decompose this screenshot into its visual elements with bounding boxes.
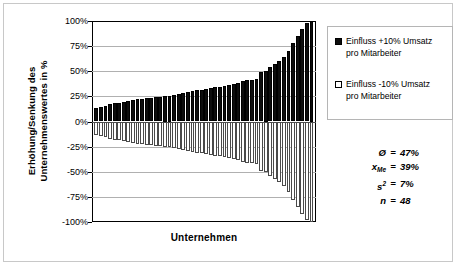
filled-square-icon [335,38,342,45]
y-tick-label: -25% [42,142,88,151]
legend-positive-line2: pro Mitarbeiter [346,48,401,58]
bar-negative [310,122,314,223]
y-axis-title-line1: Erhöhung/Senkung des [26,67,38,176]
statistic-key: s2 [356,177,386,194]
statistic-row: s2=7% [356,177,446,194]
legend-item-negative-label: Einfluss -10% Umsatz pro Mitarbeiter [346,79,430,102]
y-tick-mark [88,172,92,173]
chart-frame: Erhöhung/Senkung des Unternehmenswertes … [3,3,453,262]
legend-item-positive: Einfluss +10% Umsatz pro Mitarbeiter [335,36,446,59]
y-tick-mark [88,71,92,72]
y-tick-mark [88,21,92,22]
legend-negative-line2: pro Mitarbeiter [346,91,401,101]
y-tick-label: 0% [42,117,88,126]
statistic-key: Ø [356,146,386,160]
bar-positive [310,21,314,122]
plot-area [92,21,316,222]
y-tick-mark [88,222,92,223]
statistic-equals: = [386,146,400,160]
y-tick-mark [88,46,92,47]
statistic-value: 7% [400,177,434,194]
y-tick-mark [88,147,92,148]
bar-column [309,21,314,222]
y-tick-label: 50% [42,67,88,76]
statistic-equals: = [386,194,400,208]
y-tick-label: -100% [42,218,88,227]
y-tick-mark [88,96,92,97]
y-tick-mark [88,122,92,123]
statistics-box: Ø=47%xMe=39%s2=7%n=48 [356,146,446,208]
statistic-equals: = [386,177,400,194]
y-tick-mark [88,197,92,198]
legend-positive-line1: Einfluss +10% Umsatz [346,36,432,46]
y-tick-label: 75% [42,42,88,51]
y-tick-label: -75% [42,192,88,201]
statistic-value: 47% [400,146,434,160]
statistic-value: 48 [400,194,434,208]
legend-negative-line1: Einfluss -10% Umsatz [346,79,430,89]
statistic-key: xMe [356,160,386,177]
y-axis-tick-labels: 100%75%50%25%0%-25%-50%-75%-100% [40,21,88,222]
legend-item-negative: Einfluss -10% Umsatz pro Mitarbeiter [335,79,446,102]
statistic-row: xMe=39% [356,160,446,177]
hollow-square-icon [335,81,342,88]
x-axis-title: Unternehmen [92,232,316,243]
statistic-row: n=48 [356,194,446,208]
statistic-row: Ø=47% [356,146,446,160]
legend-item-positive-label: Einfluss +10% Umsatz pro Mitarbeiter [346,36,432,59]
y-tick-label: 100% [42,17,88,26]
y-tick-label: -50% [42,167,88,176]
statistic-equals: = [386,160,400,177]
statistic-key: n [356,194,386,208]
statistic-value: 39% [400,160,434,177]
bar-series-container [92,21,316,222]
y-tick-label: 25% [42,92,88,101]
legend-box: Einfluss +10% Umsatz pro Mitarbeiter Ein… [327,26,453,120]
